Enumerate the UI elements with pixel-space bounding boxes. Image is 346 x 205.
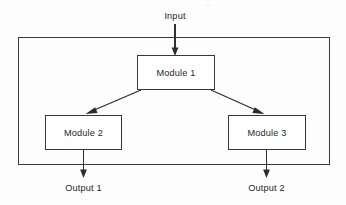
- module1-module2-line: [92, 90, 141, 111]
- module1-module3-line: [211, 90, 258, 111]
- node-module-2: Module 2: [46, 116, 122, 150]
- module1-module3-arrowhead: [252, 107, 264, 114]
- module1-module2-arrowhead: [86, 107, 98, 114]
- edge-input-to-module1: [172, 24, 179, 56]
- module-3-label: Module 3: [248, 128, 287, 138]
- block-diagram-canvas: Input Module 1 Module 2 Modu: [0, 0, 346, 205]
- module-1-label: Module 1: [157, 68, 196, 78]
- output-1-label: Output 1: [65, 183, 101, 193]
- edge-module1-to-module2: [86, 90, 142, 114]
- input-label: Input: [164, 11, 185, 21]
- output-2-arrowhead: [263, 170, 270, 179]
- module-2-label: Module 2: [64, 128, 103, 138]
- node-module-3: Module 3: [229, 116, 306, 150]
- output-2-label: Output 2: [248, 183, 284, 193]
- node-module-1: Module 1: [138, 56, 215, 90]
- input-arrowhead: [172, 48, 179, 57]
- edge-module1-to-module3: [211, 90, 265, 114]
- output-1-arrowhead: [80, 170, 87, 179]
- diagram-svg: Input Module 1 Module 2 Modu: [0, 0, 346, 205]
